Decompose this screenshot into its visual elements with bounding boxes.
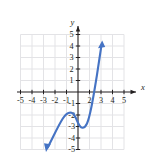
x-axis-arrow bbox=[131, 90, 137, 94]
x-tick-label: -4 bbox=[29, 96, 36, 105]
axis-lines bbox=[17, 26, 136, 150]
y-tick-label: -4 bbox=[68, 134, 75, 143]
y-tick-label: -1 bbox=[68, 99, 75, 108]
y-tick-labels-positive: 5 4 3 2 1 bbox=[69, 30, 73, 85]
curve-arrow-lower-left bbox=[44, 143, 51, 152]
y-tick-label: 5 bbox=[69, 30, 73, 39]
y-tick-label: -5 bbox=[68, 145, 75, 154]
x-tick-label: -3 bbox=[40, 96, 47, 105]
curve-arrow-upper-right bbox=[98, 41, 105, 49]
coordinate-plane: -5 -4 -3 -2 -1 2 3 4 5 5 4 3 2 1 -1 -2 -… bbox=[0, 0, 162, 163]
x-tick-label: 3 bbox=[99, 96, 103, 105]
y-tick-label: 3 bbox=[69, 53, 73, 62]
y-tick-label: 2 bbox=[69, 65, 73, 74]
x-tick-label: 5 bbox=[122, 96, 126, 105]
y-axis-label: y bbox=[70, 17, 75, 27]
y-tick-label: 4 bbox=[69, 42, 73, 51]
y-tick-labels-negative: -1 -2 -3 -4 -5 bbox=[68, 99, 75, 154]
x-tick-label: 2 bbox=[87, 96, 91, 105]
y-tick-label: 1 bbox=[69, 76, 73, 85]
x-axis-label: x bbox=[140, 82, 145, 92]
y-tick-label: -3 bbox=[68, 122, 75, 131]
graph-figure: -5 -4 -3 -2 -1 2 3 4 5 5 4 3 2 1 -1 -2 -… bbox=[0, 0, 162, 163]
x-tick-label: -5 bbox=[17, 96, 24, 105]
x-tick-label: 4 bbox=[110, 96, 114, 105]
y-axis-arrow bbox=[76, 26, 80, 32]
x-tick-label: -2 bbox=[52, 96, 59, 105]
